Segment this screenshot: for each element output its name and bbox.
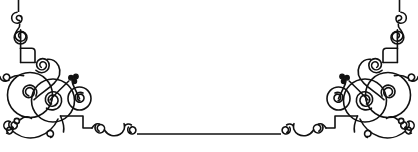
right-bud-petal-2: [340, 74, 345, 79]
ornament-canvas: [0, 0, 418, 152]
canvas-background: [0, 0, 418, 152]
left-bud-petal-2: [74, 74, 79, 79]
ornament-artwork: [0, 0, 418, 152]
